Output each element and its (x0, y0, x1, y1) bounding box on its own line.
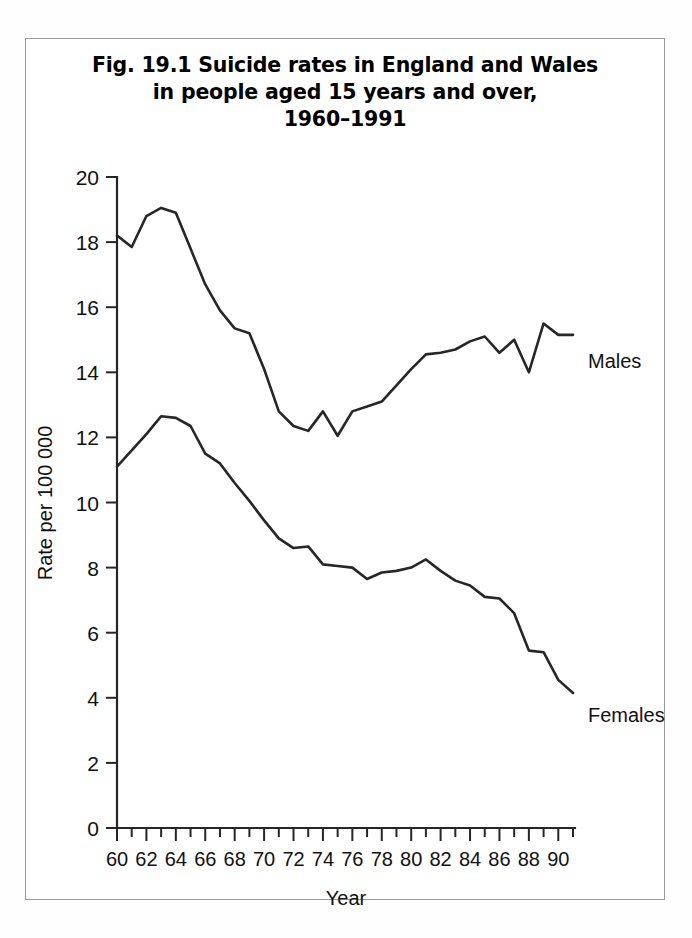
y-tick-label-10: 10 (76, 492, 99, 515)
series-label-females: Females (588, 704, 665, 726)
y-tick-group (106, 177, 117, 828)
x-tick-group (117, 828, 573, 841)
x-tick-label-group: 60626466687072747678808284868890 (106, 848, 570, 870)
x-tick-label-74: 74 (312, 848, 334, 870)
y-tick-label-8: 8 (87, 557, 99, 580)
data-series-group (117, 208, 573, 693)
y-axis-title: Rate per 100 000 (34, 426, 56, 581)
x-tick-label-88: 88 (518, 848, 540, 870)
y-tick-label-18: 18 (76, 231, 99, 254)
x-tick-label-72: 72 (282, 848, 304, 870)
x-tick-label-60: 60 (106, 848, 128, 870)
chart-plot: 02468101214161820 6062646668707274767880… (0, 0, 692, 938)
x-tick-label-76: 76 (341, 848, 363, 870)
x-tick-label-62: 62 (135, 848, 157, 870)
y-tick-label-20: 20 (76, 166, 99, 189)
x-axis-title: Year (326, 887, 367, 909)
axis-group (117, 177, 575, 828)
y-tick-label-12: 12 (76, 426, 99, 449)
x-tick-label-64: 64 (165, 848, 187, 870)
y-tick-label-0: 0 (87, 817, 99, 840)
y-tick-label-4: 4 (87, 687, 99, 710)
y-tick-label-2: 2 (87, 752, 99, 775)
x-tick-label-86: 86 (488, 848, 510, 870)
x-tick-label-78: 78 (371, 848, 393, 870)
y-tick-label-6: 6 (87, 622, 99, 645)
x-tick-label-70: 70 (253, 848, 275, 870)
line-series-females (117, 416, 573, 693)
x-tick-label-80: 80 (400, 848, 422, 870)
series-label-males: Males (588, 350, 641, 372)
figure-root: Fig. 19.1 Suicide rates in England and W… (0, 0, 692, 938)
x-tick-label-66: 66 (194, 848, 216, 870)
y-tick-label-14: 14 (76, 361, 100, 384)
x-tick-label-90: 90 (547, 848, 569, 870)
y-tick-label-group: 02468101214161820 (76, 166, 100, 840)
x-tick-label-82: 82 (429, 848, 451, 870)
line-series-males (117, 208, 573, 436)
x-tick-label-84: 84 (459, 848, 481, 870)
x-tick-label-68: 68 (224, 848, 246, 870)
y-tick-label-16: 16 (76, 296, 99, 319)
